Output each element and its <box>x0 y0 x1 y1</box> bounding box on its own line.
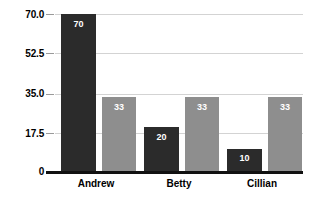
y-tick-label-0: 0 <box>39 166 44 177</box>
y-tick-label-52: 52.5 <box>25 48 44 59</box>
x-axis-label-cillian: Cillian <box>221 178 303 189</box>
x-axis-label-betty: Betty <box>138 178 220 189</box>
y-tick-mark-17 <box>46 133 54 134</box>
y-tick-label-17: 17.5 <box>25 128 44 139</box>
bar-value-andrew-series-1: 70 <box>61 19 96 29</box>
x-axis-label-andrew: Andrew <box>55 178 137 189</box>
y-tick-label-35: 35.0 <box>25 88 44 99</box>
bar-andrew-series-1: 70 <box>61 14 96 172</box>
bar-value-betty-series-2: 33 <box>185 102 219 112</box>
bar-cillian-series-1: 10 <box>227 149 262 172</box>
bar-value-andrew-series-2: 33 <box>102 102 136 112</box>
x-axis-baseline <box>46 171 303 174</box>
bar-cillian-series-2: 33 <box>268 97 302 172</box>
bar-chart: 70.0 52.5 35.0 17.5 0 70 33 20 33 10 <box>0 0 311 198</box>
y-tick-mark-35 <box>46 94 54 95</box>
bar-value-cillian-series-2: 33 <box>268 102 302 112</box>
y-axis: 70.0 52.5 35.0 17.5 0 <box>0 0 44 198</box>
bar-betty-series-1: 20 <box>144 127 179 172</box>
bar-betty-series-2: 33 <box>185 97 219 172</box>
bar-value-betty-series-1: 20 <box>144 132 179 142</box>
bar-value-cillian-series-1: 10 <box>227 153 262 163</box>
y-tick-mark-70 <box>46 14 54 15</box>
plot-area: 70 33 20 33 10 33 <box>55 14 303 172</box>
y-tick-label-70: 70.0 <box>25 9 44 20</box>
bar-andrew-series-2: 33 <box>102 97 136 172</box>
y-tick-mark-52 <box>46 53 54 54</box>
